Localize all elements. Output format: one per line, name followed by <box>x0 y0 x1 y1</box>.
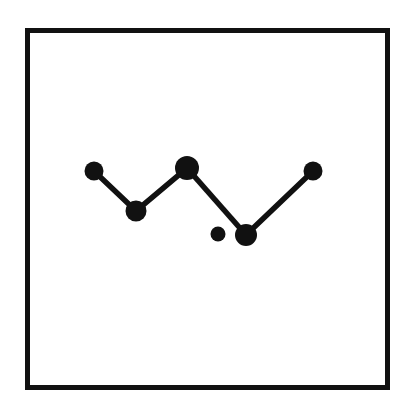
diagram-page <box>0 0 414 413</box>
data-point-p2[interactable] <box>126 201 147 222</box>
zigzag-chart-figure <box>0 0 414 413</box>
square-border-frame <box>28 31 388 388</box>
data-point-p3[interactable] <box>175 156 199 180</box>
data-point-p6[interactable] <box>304 162 323 181</box>
data-point-p5[interactable] <box>235 224 257 246</box>
data-point-p4-isolated[interactable] <box>211 227 226 242</box>
data-point-p1[interactable] <box>85 162 104 181</box>
